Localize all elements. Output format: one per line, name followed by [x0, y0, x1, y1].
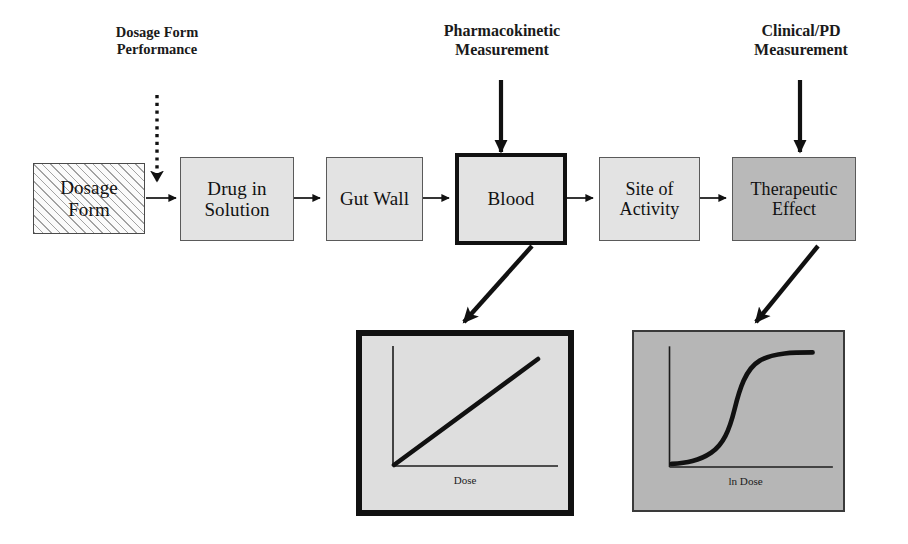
caption-clinical-pd: Clinical/PD Measurement — [712, 22, 890, 60]
caption-line-1: Dosage Form — [72, 24, 242, 41]
box-drug-in-solution[interactable]: Drug in Solution — [180, 157, 294, 241]
box-label-line-2: Activity — [620, 199, 680, 219]
pk-linear-series — [394, 359, 538, 465]
arrow-blood-to-pk-chart — [464, 246, 532, 322]
caption-line-2: Measurement — [712, 41, 890, 60]
box-label-line-2: Effect — [750, 199, 837, 219]
box-site-of-activity[interactable]: Site of Activity — [599, 157, 700, 241]
box-blood[interactable]: Blood — [455, 153, 567, 245]
box-label-line-1: Drug in — [204, 178, 269, 199]
diagram-canvas: Dosage Form Performance Pharmacokinetic … — [0, 0, 908, 544]
caption-dosage-form-performance: Dosage Form Performance — [72, 24, 242, 58]
box-label-line-2: Form — [60, 199, 118, 220]
caption-pharmacokinetic: Pharmacokinetic Measurement — [406, 22, 598, 60]
box-label-line-1: Site of — [620, 179, 680, 199]
pd-sigmoid-series — [672, 352, 813, 464]
pd-sigmoid-plot: ln Dose — [634, 332, 843, 510]
box-dosage-form[interactable]: Dosage Form — [33, 163, 145, 234]
arrow-effect-to-pd-chart — [756, 246, 818, 322]
pk-linear-plot: Dose — [362, 336, 568, 510]
box-gut-wall[interactable]: Gut Wall — [326, 157, 423, 241]
box-therapeutic-effect[interactable]: Therapeutic Effect — [732, 157, 856, 241]
caption-line-2: Performance — [72, 41, 242, 58]
box-label-line-1: Gut Wall — [340, 188, 409, 209]
caption-line-2: Measurement — [406, 41, 598, 60]
chart-pk-linear[interactable]: Dose — [356, 330, 574, 516]
chart-pd-sigmoid[interactable]: ln Dose — [632, 330, 845, 512]
box-label-line-1: Blood — [488, 188, 535, 209]
x-axis-label: Dose — [454, 474, 477, 486]
box-label-line-1: Therapeutic — [750, 179, 837, 199]
caption-line-1: Clinical/PD — [712, 22, 890, 41]
x-axis-label: ln Dose — [728, 475, 762, 487]
box-label-line-1: Dosage — [60, 177, 118, 198]
box-label-line-2: Solution — [204, 199, 269, 220]
caption-line-1: Pharmacokinetic — [406, 22, 598, 41]
